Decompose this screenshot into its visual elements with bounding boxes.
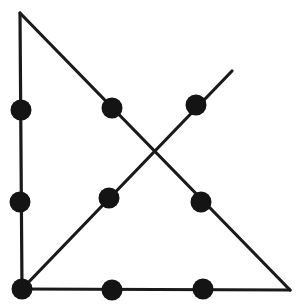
node-bottom-left-corner	[12, 279, 33, 300]
node-left-lower	[10, 192, 31, 213]
bottom-horizontal-edge	[22, 289, 290, 290]
node-bottom-middle	[102, 280, 123, 301]
figure-root	[0, 0, 302, 307]
node-diagonal-upper	[186, 95, 207, 116]
node-hypotenuse-upper	[102, 98, 123, 119]
node-hypotenuse-lower	[191, 192, 212, 213]
left-vertical-edge	[20, 13, 22, 289]
node-left-upper	[11, 100, 32, 121]
line-drawing-canvas	[0, 0, 302, 307]
node-bottom-right-inner	[193, 279, 214, 300]
node-diagonal-lower	[99, 188, 120, 209]
